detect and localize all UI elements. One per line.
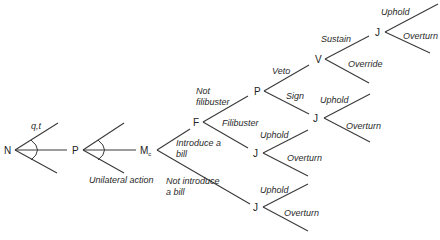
node-f: F	[193, 117, 199, 128]
node-mc: Mc	[140, 145, 151, 157]
president-node-branches	[83, 123, 136, 173]
label-not-filibuster-1: Not	[196, 86, 211, 96]
node-j-filibuster: J	[253, 148, 258, 159]
game-tree-diagram: N P Mc F P V J J J J q,t Unilateral acti…	[0, 0, 440, 240]
node-n: N	[4, 145, 11, 156]
node-p2: P	[254, 86, 261, 97]
label-not-introduce-1: Not introduce	[166, 176, 220, 186]
label-overturn-sign: Overturn	[346, 121, 381, 131]
label-introduce-1: Introduce a	[176, 138, 221, 148]
label-override: Override	[348, 59, 383, 69]
label-sign: Sign	[286, 91, 304, 101]
label-overturn-bottom: Overturn	[284, 208, 319, 218]
label-introduce-2: bill	[176, 149, 188, 159]
label-uphold-sign: Uphold	[320, 95, 350, 105]
label-sustain: Sustain	[321, 34, 351, 44]
label-veto: Veto	[272, 66, 290, 76]
label-uphold-top: Uphold	[381, 7, 411, 17]
node-v: V	[315, 54, 322, 65]
node-j-bottom: J	[253, 202, 258, 213]
label-not-filibuster-2: filibuster	[196, 97, 231, 107]
label-nature-move: q,t	[31, 121, 42, 131]
label-overturn-top: Overturn	[403, 31, 438, 41]
label-uphold-bottom: Uphold	[260, 185, 290, 195]
node-p: P	[72, 145, 79, 156]
label-not-introduce-2: a bill	[166, 187, 186, 197]
label-overturn-filibuster: Overturn	[287, 153, 322, 163]
label-unilateral-action: Unilateral action	[89, 175, 154, 185]
node-j-top: J	[375, 27, 380, 38]
label-filibuster: Filibuster	[222, 118, 260, 128]
node-j-sign: J	[313, 113, 318, 124]
label-uphold-filibuster: Uphold	[260, 130, 290, 140]
